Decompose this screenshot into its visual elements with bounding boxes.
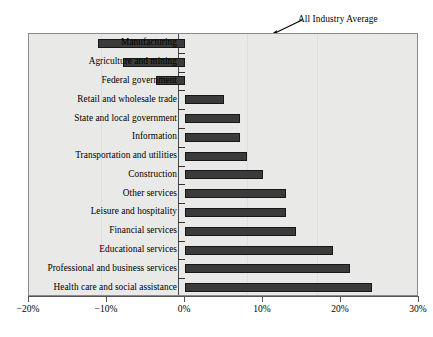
category-label: Other services: [123, 188, 177, 198]
bar[interactable]: [185, 170, 263, 179]
x-axis-tick-label: −10%: [86, 304, 126, 314]
category-tick: [178, 166, 185, 167]
category-label: Information: [132, 131, 177, 141]
x-axis-tick-label: 20%: [320, 304, 360, 314]
bar[interactable]: [185, 227, 296, 236]
bar[interactable]: [185, 283, 372, 292]
category-tick: [178, 184, 185, 185]
x-axis-tick-label: 30%: [398, 304, 433, 314]
bar[interactable]: [185, 208, 286, 217]
x-axis-tick: [106, 296, 107, 302]
bar[interactable]: [185, 114, 240, 123]
category-label: State and local government: [74, 113, 177, 123]
x-axis-tick: [262, 296, 263, 302]
category-tick: [178, 147, 185, 148]
category-tick: [178, 203, 185, 204]
category-label: Retail and wholesale trade: [77, 94, 177, 104]
category-tick: [178, 259, 185, 260]
bar[interactable]: [185, 246, 333, 255]
x-axis-line: [28, 296, 418, 297]
category-label: Agriculture and mining: [89, 56, 177, 66]
annotation-label: All Industry Average: [298, 14, 378, 24]
bar[interactable]: [185, 133, 240, 142]
category-label: Transportation and utilities: [75, 150, 177, 160]
category-labels: ManufacturingAgriculture and miningFeder…: [28, 33, 177, 296]
category-label: Federal government: [101, 75, 177, 85]
x-axis-tick: [184, 296, 185, 302]
category-label: Leisure and hospitality: [91, 206, 177, 216]
category-tick: [178, 241, 185, 242]
category-tick: [178, 222, 185, 223]
category-tick: [178, 109, 185, 110]
zero-axis-line: [178, 34, 179, 295]
x-axis-tick-label: 10%: [242, 304, 282, 314]
category-tick: [178, 278, 185, 279]
bar[interactable]: [185, 264, 350, 273]
chart-figure: All Industry Average ManufacturingAgricu…: [0, 0, 433, 337]
category-label: Construction: [128, 169, 177, 179]
category-tick: [178, 128, 185, 129]
category-label: Financial services: [109, 225, 177, 235]
bar[interactable]: [185, 95, 224, 104]
ghost-gridline: [247, 34, 248, 295]
bar[interactable]: [185, 189, 286, 198]
category-tick: [178, 90, 185, 91]
x-axis-tick-label: −20%: [8, 304, 48, 314]
x-axis-tick: [28, 296, 29, 302]
category-label: Professional and business services: [47, 263, 177, 273]
x-axis-tick-label: 0%: [164, 304, 204, 314]
category-tick: [178, 53, 185, 54]
category-label: Health care and social assistance: [54, 282, 178, 292]
x-axis-tick: [418, 296, 419, 302]
category-label: Manufacturing: [121, 37, 177, 47]
x-axis-tick: [340, 296, 341, 302]
category-label: Educational services: [99, 244, 177, 254]
category-tick: [178, 72, 185, 73]
bar[interactable]: [185, 152, 247, 161]
ghost-gridline: [317, 34, 318, 295]
